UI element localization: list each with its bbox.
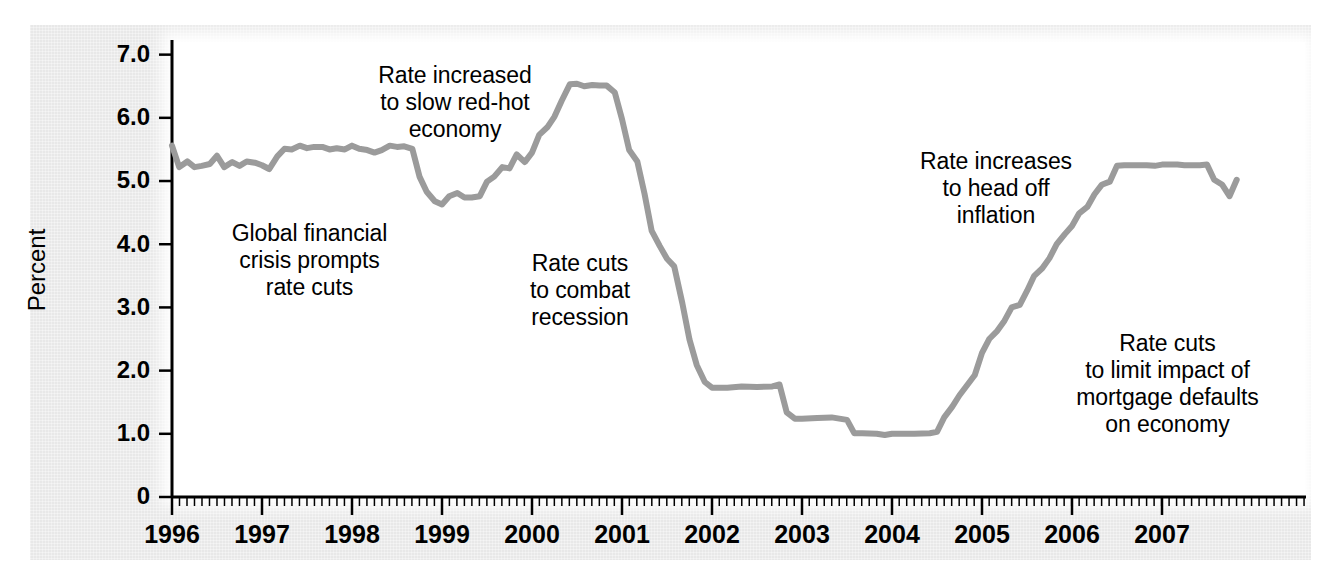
x-tick-label: 1996 [144,520,200,548]
y-tick-label: 6.0 [117,103,150,130]
y-tick-label: 0 [137,482,150,509]
y-axis-title: Percent [23,228,50,311]
y-tick-label: 2.0 [117,356,150,383]
x-tick-label: 2006 [1044,520,1100,548]
x-tick-label: 2000 [504,520,560,548]
x-tick-label: 2007 [1134,520,1190,548]
annotation-global-financial-crisis: Global financial crisis prompts rate cut… [192,220,427,301]
x-tick-labels: 1996199719981999200020012002200320042005… [144,520,1190,548]
x-tick-label: 1998 [324,520,380,548]
annotation-rate-increased-red-hot: Rate increased to slow red-hot economy [340,62,570,143]
annotation-rate-cuts-mortgage-defaults: Rate cuts to limit impact of mortgage de… [1040,330,1295,438]
y-tick-label: 3.0 [117,293,150,320]
x-tick-label: 2002 [684,520,740,548]
x-tick-label: 1997 [234,520,290,548]
x-tick-label: 2004 [864,520,920,548]
y-tick-label: 7.0 [117,40,150,67]
y-tick-label: 1.0 [117,419,150,446]
x-tick-label: 2003 [774,520,830,548]
x-tick-label: 2001 [594,520,650,548]
annotation-rate-cuts-recession: Rate cuts to combat recession [480,250,680,331]
y-tick-label: 4.0 [117,230,150,257]
y-tick-label: 5.0 [117,166,150,193]
y-tick-labels: 7.06.05.04.03.02.01.00 [117,40,150,509]
y-major-ticks [159,55,172,497]
annotation-rate-increases-inflation: Rate increases to head off inflation [880,148,1112,229]
x-tick-label: 2005 [954,520,1010,548]
x-tick-label: 1999 [414,520,470,548]
figure-canvas: 7.06.05.04.03.02.01.00 19961997199819992… [0,0,1341,576]
